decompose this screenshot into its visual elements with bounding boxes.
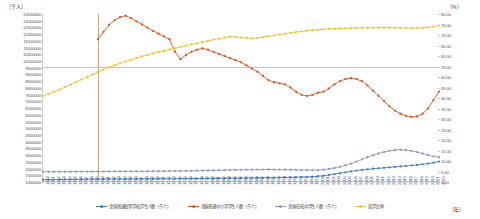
series-point-enrollment_rate bbox=[146, 54, 148, 56]
series-point-secondary bbox=[152, 170, 154, 172]
y-axis-left-tick-label: 8500000 bbox=[25, 79, 41, 84]
series-point-primary_secondary bbox=[394, 109, 396, 111]
series-point-primary_secondary bbox=[405, 115, 407, 117]
series-point-secondary bbox=[339, 166, 341, 168]
series-point-enrollment_rate bbox=[421, 27, 423, 29]
series-point-secondary bbox=[322, 168, 324, 170]
series-point-university bbox=[383, 167, 385, 169]
series-point-enrollment_rate bbox=[53, 91, 55, 93]
series-point-primary_secondary bbox=[289, 86, 291, 88]
x-axis-tick-mark bbox=[131, 181, 132, 183]
series-point-enrollment_rate bbox=[196, 42, 198, 44]
x-axis-tick-mark bbox=[395, 181, 396, 183]
series-point-secondary bbox=[97, 170, 99, 172]
y-axis-right-tick-label: 65.00 bbox=[441, 43, 451, 48]
series-point-primary_secondary bbox=[311, 94, 313, 96]
y-axis-left-tick-label: 11000000 bbox=[23, 45, 41, 50]
series-point-secondary bbox=[311, 169, 313, 171]
series-point-secondary bbox=[64, 171, 66, 173]
legend-item-enrollment_rate[interactable]: 就学比率 bbox=[355, 203, 383, 209]
series-point-secondary bbox=[394, 149, 396, 151]
legend-item-primary_secondary[interactable]: 全国普通中小学学生人数（千人） bbox=[188, 203, 259, 209]
legend-label: 全国在校中学生人数（千人） bbox=[288, 203, 338, 209]
x-axis-tick-mark bbox=[296, 181, 297, 183]
series-point-secondary bbox=[91, 170, 93, 172]
y-axis-right-tick-label: 50.00 bbox=[441, 75, 451, 80]
series-point-enrollment_rate bbox=[179, 46, 181, 48]
y-axis-left-tick-label: 9000000 bbox=[25, 72, 41, 77]
series-point-enrollment_rate bbox=[102, 69, 104, 71]
y-axis-left-tick-label: 3000000 bbox=[25, 153, 41, 158]
series-point-enrollment_rate bbox=[218, 37, 220, 39]
series-point-enrollment_rate bbox=[394, 27, 396, 29]
series-point-enrollment_rate bbox=[300, 30, 302, 32]
series-point-primary_secondary bbox=[333, 83, 335, 85]
y-axis-right-tick-label: 55.00 bbox=[441, 64, 451, 69]
series-point-university bbox=[366, 168, 368, 170]
plot-area: 1350000013000000125000001200000011500000… bbox=[42, 14, 438, 182]
series-point-secondary bbox=[372, 154, 374, 156]
series-point-primary_secondary bbox=[108, 24, 110, 26]
y-axis-right-tick-label: 20.00 bbox=[441, 138, 451, 143]
series-point-enrollment_rate bbox=[135, 57, 137, 59]
series-point-primary_secondary bbox=[322, 91, 324, 93]
series-point-primary_secondary bbox=[113, 19, 115, 21]
series-point-secondary bbox=[168, 170, 170, 172]
series-point-primary_secondary bbox=[152, 30, 154, 32]
x-axis-tick-label: 2022 bbox=[441, 176, 446, 185]
legend-item-university[interactable]: 全国普通高等学校学生人数（千人） bbox=[96, 203, 171, 209]
series-point-enrollment_rate bbox=[91, 73, 93, 75]
series-point-enrollment_rate bbox=[201, 41, 203, 43]
series-point-primary_secondary bbox=[256, 71, 258, 73]
series-point-primary_secondary bbox=[234, 59, 236, 61]
y-axis-right-tick-label: 25.00 bbox=[441, 127, 451, 132]
series-point-enrollment_rate bbox=[47, 93, 49, 95]
x-axis-tick-mark bbox=[263, 181, 264, 183]
series-point-secondary bbox=[196, 170, 198, 172]
x-axis-tick-mark bbox=[219, 181, 220, 183]
x-axis-tick-mark bbox=[142, 181, 143, 183]
series-point-primary_secondary bbox=[174, 51, 176, 53]
x-axis-unit-label: （年） bbox=[449, 206, 464, 213]
y-axis-right-tick-label: 60.00 bbox=[441, 54, 451, 59]
series-point-primary_secondary bbox=[179, 58, 181, 60]
series-enrollment_rate bbox=[42, 24, 440, 97]
series-point-secondary bbox=[416, 151, 418, 153]
left-axis-unit-label: （千人） bbox=[6, 3, 26, 10]
series-point-primary_secondary bbox=[168, 38, 170, 40]
series-point-enrollment_rate bbox=[190, 43, 192, 45]
series-point-secondary bbox=[146, 170, 148, 172]
series-point-enrollment_rate bbox=[388, 27, 390, 29]
series-point-primary_secondary bbox=[377, 95, 379, 97]
x-axis-tick-mark bbox=[252, 181, 253, 183]
legend-marker-icon bbox=[96, 204, 107, 209]
series-point-secondary bbox=[251, 169, 253, 171]
series-point-enrollment_rate bbox=[339, 27, 341, 29]
y-axis-left-tick-label: 2000000 bbox=[25, 166, 41, 171]
legend-item-secondary[interactable]: 全国在校中学生人数（千人） bbox=[275, 203, 338, 209]
x-axis-tick-mark bbox=[329, 181, 330, 183]
series-point-primary_secondary bbox=[146, 27, 148, 29]
series-point-university bbox=[361, 169, 363, 171]
x-axis-tick-mark bbox=[186, 181, 187, 183]
series-point-enrollment_rate bbox=[438, 24, 440, 26]
x-axis-tick-mark bbox=[54, 181, 55, 183]
y-axis-right-tick-label: 10.00 bbox=[441, 159, 451, 164]
series-point-primary_secondary bbox=[300, 94, 302, 96]
y-axis-left-tick-label: 5500000 bbox=[25, 119, 41, 124]
series-point-secondary bbox=[361, 158, 363, 160]
series-point-secondary bbox=[273, 168, 275, 170]
series-point-enrollment_rate bbox=[410, 27, 412, 29]
series-point-secondary bbox=[141, 170, 143, 172]
series-point-primary_secondary bbox=[432, 99, 434, 101]
x-axis-tick-mark bbox=[318, 181, 319, 183]
series-point-enrollment_rate bbox=[75, 81, 77, 83]
series-point-primary_secondary bbox=[273, 81, 275, 83]
legend-label: 就学比率 bbox=[368, 203, 383, 209]
y-axis-left-tick-label: 7500000 bbox=[25, 92, 41, 97]
series-point-primary_secondary bbox=[410, 116, 412, 118]
series-point-enrollment_rate bbox=[80, 78, 82, 80]
series-point-enrollment_rate bbox=[317, 29, 319, 31]
series-point-secondary bbox=[69, 171, 71, 173]
series-point-primary_secondary bbox=[328, 87, 330, 89]
